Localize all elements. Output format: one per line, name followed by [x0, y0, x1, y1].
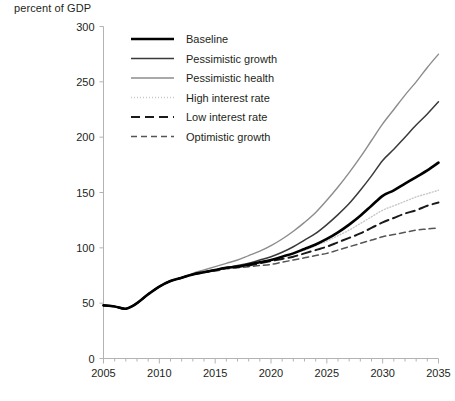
chart-plot-area: 050100150200250300 200520102015202020252… [0, 0, 455, 401]
x-tick-label: 2010 [147, 367, 171, 379]
x-tick-label: 2020 [259, 367, 283, 379]
series-line [104, 54, 439, 309]
x-tick-label: 2025 [315, 367, 339, 379]
y-tick-label: 300 [76, 21, 94, 33]
chart-container: percent of GDP 050100150200250300 200520… [0, 0, 455, 401]
legend-label: Optimistic growth [186, 131, 270, 143]
y-tick-group: 050100150200250300 [76, 21, 103, 365]
y-tick-label: 0 [88, 353, 94, 365]
x-tick-label: 2035 [426, 367, 450, 379]
y-tick-label: 250 [76, 76, 94, 88]
y-tick-label: 150 [76, 187, 94, 199]
series-line [104, 102, 439, 309]
series-line [104, 163, 439, 309]
y-tick-label: 50 [82, 297, 94, 309]
series-line [104, 228, 439, 309]
legend-label: Low interest rate [186, 111, 267, 123]
x-tick-label: 2030 [370, 367, 394, 379]
chart-legend: BaselinePessimistic growthPessimistic he… [131, 33, 277, 143]
y-tick-label: 100 [76, 242, 94, 254]
x-tick-label: 2015 [203, 367, 227, 379]
x-tick-label: 2005 [91, 367, 115, 379]
legend-label: Pessimistic growth [186, 53, 277, 65]
y-axis-group: 050100150200250300 [76, 21, 103, 365]
series-line [104, 202, 439, 308]
y-tick-label: 200 [76, 131, 94, 143]
legend-label: Pessimistic health [186, 72, 274, 84]
legend-label: Baseline [186, 33, 228, 45]
x-tick-group: 2005201020152020202520302035 [91, 359, 450, 379]
legend-label: High interest rate [186, 92, 270, 104]
series-group [104, 54, 439, 309]
x-axis-group: 2005201020152020202520302035 [91, 359, 450, 379]
